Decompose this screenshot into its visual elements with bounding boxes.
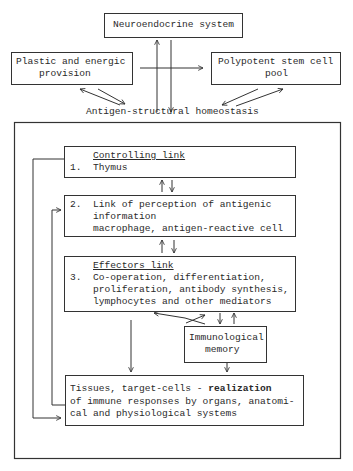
- plastic-label-line1: Plastic and energic: [16, 56, 125, 68]
- link2-line1: information: [93, 211, 156, 223]
- link3-title: Effectors link: [93, 260, 174, 272]
- effectors-link-box: Effectors link 3. Co-operation, differen…: [64, 256, 296, 312]
- plastic-energic-box: Plastic and energic provision: [11, 52, 133, 85]
- link2-number: 2.: [70, 199, 82, 211]
- stem-label-line2: pool: [265, 68, 288, 80]
- link1-number: 1.: [70, 162, 82, 174]
- perception-link-box: 2. Link of perception of antigenic infor…: [64, 195, 296, 237]
- neuroendocrine-label: Neuroendocrine system: [113, 19, 234, 31]
- plastic-label-line2: provision: [39, 68, 91, 80]
- immunological-memory-box: Immunological memory: [184, 326, 267, 363]
- stem-label-line1: Polypotent stem cell: [218, 56, 333, 68]
- tissues-line1-b: realization: [208, 383, 271, 394]
- homeostasis-label: Antigen-structural homeostasis: [86, 106, 259, 118]
- link3-line1: Co-operation, differentiation,: [93, 272, 266, 284]
- tissues-line3: cal and physiological systems: [70, 408, 237, 420]
- stem-cell-pool-box: Polypotent stem cell pool: [211, 52, 341, 85]
- link1-line1: Thymus: [93, 162, 128, 174]
- link2-line2: macrophage, antigen-reactive cell: [93, 223, 283, 235]
- memory-line1: Immunological: [189, 332, 264, 344]
- link3-number: 3.: [70, 272, 82, 284]
- tissues-line2: of immune responses by organs, anatomi-: [70, 396, 295, 408]
- link3-line2: proliferation, antibody synthesis,: [93, 284, 289, 296]
- link3-line3: lymphocytes and other mediators: [93, 296, 271, 308]
- link2-title: Link of perception of antigenic: [93, 199, 271, 211]
- tissues-line1: Tissues, target-cells - realization: [70, 383, 272, 395]
- tissues-line1-a: Tissues, target-cells -: [70, 383, 208, 394]
- tissues-target-cells-box: Tissues, target-cells - realization of i…: [65, 375, 304, 426]
- memory-line2: memory: [205, 344, 240, 356]
- neuroendocrine-box: Neuroendocrine system: [104, 13, 243, 38]
- link1-title: Controlling link: [93, 150, 185, 162]
- controlling-link-box: Controlling link 1. Thymus: [64, 146, 296, 178]
